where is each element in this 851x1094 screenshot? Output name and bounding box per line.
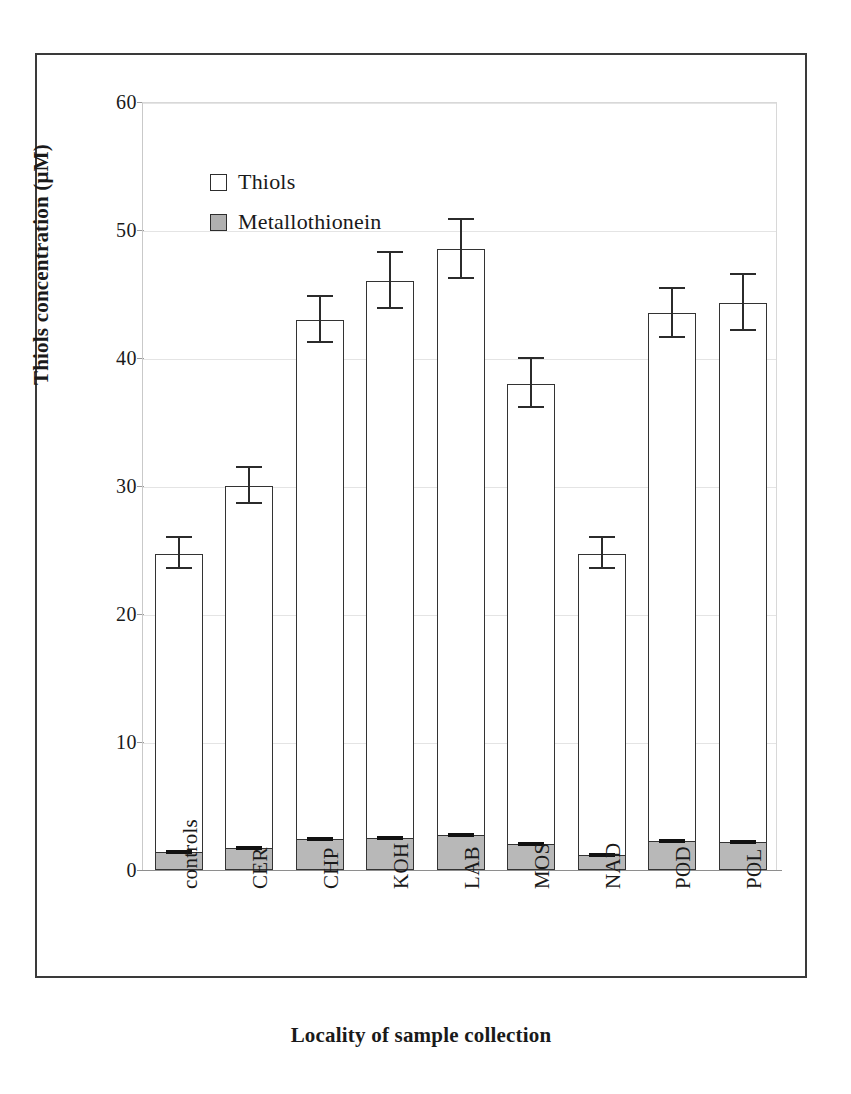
- x-tick-label-text: LAB: [460, 846, 485, 889]
- bar-segment-thiols[interactable]: [507, 384, 555, 870]
- x-tick-label: NAD: [566, 881, 636, 1001]
- x-tick-label-text: CHP: [319, 847, 344, 889]
- bar-segment-thiols[interactable]: [225, 486, 273, 870]
- x-tick-label: CER: [213, 881, 283, 1001]
- x-axis-title: Locality of sample collection: [37, 1023, 805, 1048]
- x-tick-label: POL: [707, 881, 777, 1001]
- error-bar-cap-lower: [377, 307, 403, 309]
- legend-item-label: Metallothionein: [238, 211, 382, 233]
- legend-item[interactable]: Thiols: [210, 162, 382, 202]
- bar-segment-thiols[interactable]: [578, 554, 626, 870]
- x-tick-label-text: MOS: [530, 843, 555, 889]
- x-tick-label: POD: [636, 881, 706, 1001]
- bar-column: [437, 249, 485, 870]
- x-tick-label: CHP: [284, 881, 354, 1001]
- error-bar-cap-upper: [307, 295, 333, 297]
- legend-swatch-thiols-icon: [210, 174, 227, 191]
- y-tick-label: 40: [79, 348, 137, 368]
- metallothionein-error-bar: [377, 836, 403, 840]
- error-bar-line: [742, 275, 744, 331]
- chart-legend: ThiolsMetallothionein: [210, 162, 382, 242]
- error-bar-cap-lower: [448, 277, 474, 279]
- bar-segment-thiols[interactable]: [648, 313, 696, 870]
- error-bar-cap-lower: [236, 502, 262, 504]
- error-bar-cap-upper: [730, 273, 756, 275]
- error-bar-cap-upper: [377, 251, 403, 253]
- error-bar-cap-lower: [589, 567, 615, 569]
- y-tick-label: 10: [79, 732, 137, 752]
- metallothionein-error-bar: [730, 840, 756, 844]
- bar-group: [144, 102, 214, 870]
- x-tick-label-text: KOH: [389, 843, 414, 889]
- y-tick-label: 0: [79, 860, 137, 880]
- x-tick-label-text: POD: [671, 846, 696, 889]
- error-bar-cap-lower: [307, 341, 333, 343]
- error-bar-cap-upper: [166, 536, 192, 538]
- error-bar-line: [460, 220, 462, 279]
- bar-group: [708, 102, 778, 870]
- metallothionein-error-bar: [307, 837, 333, 841]
- error-bar-cap-upper: [236, 466, 262, 468]
- error-bar-cap-lower: [518, 406, 544, 408]
- bar-segment-thiols[interactable]: [719, 303, 767, 870]
- error-bar-line: [178, 538, 180, 569]
- x-tick-label-text: CER: [248, 847, 273, 889]
- bar-column: [225, 486, 273, 870]
- x-tick-label: MOS: [495, 881, 565, 1001]
- y-tick-label: 60: [79, 92, 137, 112]
- error-bar-line: [248, 468, 250, 504]
- bar-group: [637, 102, 707, 870]
- bar-group: [496, 102, 566, 870]
- figure-frame: 0102030405060 Thiols concentration (μM) …: [35, 53, 807, 978]
- x-tick-label-text: controls: [178, 819, 203, 889]
- bar-column: [366, 281, 414, 870]
- bar-column: [719, 303, 767, 870]
- y-axis-ticks: 0102030405060: [57, 102, 137, 870]
- x-tick-label-text: NAD: [601, 843, 626, 889]
- error-bar-cap-upper: [589, 536, 615, 538]
- x-tick-label-text: POL: [742, 848, 767, 889]
- error-bar-line: [530, 359, 532, 408]
- y-tick-label: 20: [79, 604, 137, 624]
- y-tick-label: 30: [79, 476, 137, 496]
- bar-column: [648, 313, 696, 870]
- bar-segment-thiols[interactable]: [437, 249, 485, 870]
- error-bar-cap-upper: [448, 218, 474, 220]
- error-bar-line: [389, 253, 391, 309]
- error-bar-line: [319, 297, 321, 343]
- x-tick-label: LAB: [425, 881, 495, 1001]
- error-bar-line: [601, 538, 603, 569]
- x-tick-label: KOH: [354, 881, 424, 1001]
- error-bar-cap-lower: [659, 336, 685, 338]
- bar-segment-thiols[interactable]: [296, 320, 344, 870]
- bar-column: [507, 384, 555, 870]
- error-bar-cap-upper: [659, 287, 685, 289]
- metallothionein-error-bar: [448, 833, 474, 837]
- error-bar-cap-lower: [166, 567, 192, 569]
- y-axis-title: Thiols concentration (μM): [29, 0, 54, 385]
- bar-column: [578, 554, 626, 870]
- error-bar-cap-upper: [518, 357, 544, 359]
- y-tick-label: 50: [79, 220, 137, 240]
- x-tick-label: controls: [143, 881, 213, 1001]
- error-bar-cap-lower: [730, 329, 756, 331]
- legend-item-label: Thiols: [238, 171, 295, 193]
- bar-segment-thiols[interactable]: [366, 281, 414, 870]
- error-bar-line: [671, 289, 673, 338]
- bar-group: [426, 102, 496, 870]
- metallothionein-error-bar: [659, 839, 685, 843]
- legend-swatch-metallothionein-icon: [210, 214, 227, 231]
- bar-column: [296, 320, 344, 870]
- bar-group: [567, 102, 637, 870]
- legend-item[interactable]: Metallothionein: [210, 202, 382, 242]
